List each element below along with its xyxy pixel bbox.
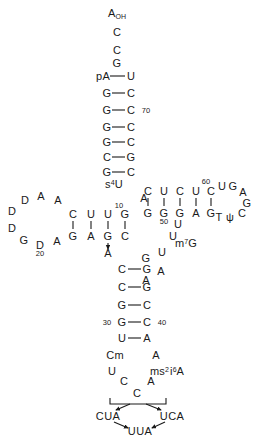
acceptor-pair-6-left: C [103, 152, 111, 163]
anticodon-pair-3-left: G [118, 300, 127, 311]
codon-uca: UCA [160, 411, 184, 422]
t-arm-bonds [148, 198, 211, 206]
acceptor-pair-5-left: G [103, 137, 112, 148]
variable-loop-u-3: U [158, 247, 166, 258]
residue-number-30: 30 [103, 319, 111, 327]
residue-number-70: 70 [142, 107, 150, 115]
d-loop-1: A [54, 195, 62, 206]
anticodon-pair-3-right: C [143, 300, 151, 311]
d-stem-bottom-4: C [121, 231, 129, 242]
acceptor-pair-1-right: U [127, 71, 135, 82]
acceptor-stem-bonds [110, 76, 125, 172]
anticodon-loop-c-center: C [133, 388, 141, 399]
d-arm-bonds [73, 221, 125, 229]
d-loop-5: D [8, 223, 16, 234]
acceptor-pair-6-right: G [127, 152, 136, 163]
codon-uua: UUA [128, 426, 152, 437]
acceptor-pair-4-right: C [127, 122, 135, 133]
acceptor-3prime-end: AOH [108, 8, 126, 20]
anticodon-pair-2-right: G [143, 282, 152, 293]
residue-number-40: 40 [158, 319, 166, 327]
anticodon-loop-c-left: C [120, 376, 128, 387]
d-stem-bottom-1: G [69, 231, 78, 242]
acceptor-pair-3-left: G [103, 105, 112, 116]
anticodon-loop-a-right: A [152, 350, 160, 361]
d-loop-8: A [53, 236, 61, 247]
anticodon-pair-4-left: G [118, 317, 127, 328]
d-stem-bottom-3: G [104, 231, 113, 242]
nucleotide-g74: G [113, 58, 122, 69]
t-stem-top-3: C [176, 186, 184, 197]
variable-loop-a-top: A [140, 193, 148, 204]
t-loop-2: G [229, 181, 238, 192]
acceptor-pair-7-left: G [103, 167, 112, 178]
d-loop-6: G [20, 235, 29, 246]
modified-base-s4u: s4U [105, 179, 123, 190]
anticodon-loop-a-inner: A [147, 376, 155, 387]
nucleotide-c75: C [113, 45, 121, 56]
residue-number-10: 10 [115, 202, 123, 210]
residue-number-20: 20 [36, 250, 44, 258]
t-stem-bottom-4: A [192, 208, 200, 219]
bulge-nucleotide-a: A [104, 248, 112, 259]
anticodon-pair-1-left: C [118, 264, 126, 275]
t-loop-1: U [218, 181, 226, 192]
modified-base-m7g: m7G [175, 238, 197, 249]
acceptor-pair-7-right: C [127, 167, 135, 178]
t-stem-top-5: C [207, 186, 215, 197]
codon-cua: CUA [96, 411, 120, 422]
t-stem-top-2: U [160, 186, 168, 197]
variable-loop-a-1: A [157, 266, 165, 277]
t-stem-bottom-1: G [144, 208, 153, 219]
t-loop-pseudouridine: ψ [226, 212, 234, 223]
residue-number-50: 50 [160, 218, 168, 226]
d-loop-3: D [21, 195, 29, 206]
acceptor-pair-2-right: C [127, 88, 135, 99]
modified-base-cm: Cm [106, 350, 124, 361]
residue-number-60: 60 [202, 178, 210, 186]
anticodon-bracket [110, 398, 166, 404]
d-loop-2: A [37, 191, 45, 202]
d-stem-top-2: U [87, 209, 95, 220]
variable-loop-u-1: U [174, 219, 182, 230]
anticodon-pair-5-right: A [143, 333, 151, 344]
trna-cloverleaf-diagram: AOH C C G pA U G C G C 70 G C G C C G G … [0, 0, 257, 439]
anticodon-pair-1-right: G [143, 264, 152, 275]
d-loop-4: D [8, 206, 16, 217]
anticodon-pair-4-right: C [143, 317, 151, 328]
t-loop-5: C [238, 208, 246, 219]
d-stem-bottom-2: A [87, 231, 95, 242]
acceptor-pair-2-left: G [103, 88, 112, 99]
t-stem-top-4: U [192, 186, 200, 197]
t-stem-bottom-5: G [207, 208, 216, 219]
d-stem-top-3: U [104, 209, 112, 220]
nucleotide-c76: C [113, 27, 121, 38]
acceptor-5prime-end: pA [96, 71, 110, 82]
acceptor-pair-5-right: C [127, 137, 135, 148]
anticodon-stem-bonds [128, 269, 141, 338]
anticodon-pair-2-left: C [118, 282, 126, 293]
d-stem-top-1: C [69, 209, 77, 220]
acceptor-pair-3-right: C [127, 105, 135, 116]
acceptor-pair-4-left: G [103, 122, 112, 133]
t-loop-thymine: T [216, 212, 223, 223]
anticodon-loop-u: U [108, 366, 116, 377]
anticodon-pair-5-left: U [118, 333, 126, 344]
